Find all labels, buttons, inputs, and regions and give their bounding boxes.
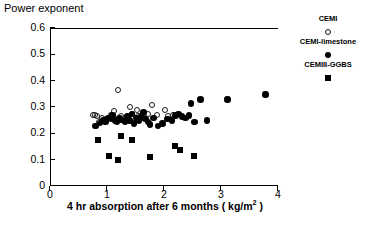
legend-marker-row [283, 24, 373, 34]
data-point-square-filled [95, 137, 101, 143]
y-tick-mark [50, 106, 55, 107]
data-point-circle-open [149, 102, 155, 108]
legend-marker-row [283, 70, 373, 80]
data-point-circle-open [127, 104, 133, 110]
data-point-circle-open [115, 87, 121, 93]
y-tick-mark [50, 159, 55, 160]
data-point-circle-filled [224, 96, 231, 103]
y-tick-mark [50, 185, 55, 186]
legend-marker-circle-filled-icon [325, 52, 332, 59]
data-point-circle-filled [204, 117, 211, 124]
legend-entry: CEMIII-GGBS [283, 60, 373, 80]
y-tick-mark [50, 80, 55, 81]
legend-marker-square-filled-icon [325, 75, 331, 81]
data-point-square-filled [177, 147, 183, 153]
data-point-circle-open [162, 107, 168, 113]
data-point-circle-filled [188, 100, 195, 107]
data-point-square-filled [118, 133, 124, 139]
data-point-square-filled [106, 153, 112, 159]
data-point-circle-filled [262, 91, 269, 98]
y-tick-mark [50, 27, 55, 28]
legend-label: CEMI [283, 14, 373, 24]
data-point-square-filled [147, 154, 153, 160]
data-point-circle-filled [150, 115, 157, 122]
y-tick-label: 0.3 [5, 100, 45, 112]
y-axis-title: Power exponent [4, 2, 84, 14]
data-point-square-filled [191, 153, 197, 159]
y-tick-mark [50, 54, 55, 55]
data-point-circle-filled [197, 96, 204, 103]
plot-frame [50, 28, 278, 186]
legend-entry: CEMI [283, 14, 373, 34]
data-point-circle-filled [186, 112, 193, 119]
data-point-square-filled [115, 157, 121, 163]
legend-label: CEMIII-GGBS [283, 60, 373, 70]
y-tick-label: 0.6 [5, 21, 45, 33]
y-tick-label: 0.4 [5, 74, 45, 86]
chart-legend: CEMICEMI-limestoneCEMIII-GGBS [283, 14, 373, 83]
data-point-square-filled [129, 137, 135, 143]
x-axis-title: 4 hr absorption after 6 months ( kg/m2 ) [50, 199, 280, 212]
legend-marker-row [283, 47, 373, 57]
y-tick-mark [50, 133, 55, 134]
legend-marker-circle-open-icon [325, 29, 331, 35]
plot-area [51, 29, 278, 185]
y-tick-label: 0.1 [5, 153, 45, 165]
y-tick-label: 0.2 [5, 126, 45, 138]
data-point-circle-filled [191, 119, 198, 126]
data-point-circle-filled [147, 121, 154, 128]
legend-label: CEMI-limestone [283, 37, 373, 47]
chart-page: Power exponent 00.10.20.30.40.50.601234 … [0, 0, 375, 236]
legend-entry: CEMI-limestone [283, 37, 373, 57]
y-tick-label: 0.5 [5, 47, 45, 59]
